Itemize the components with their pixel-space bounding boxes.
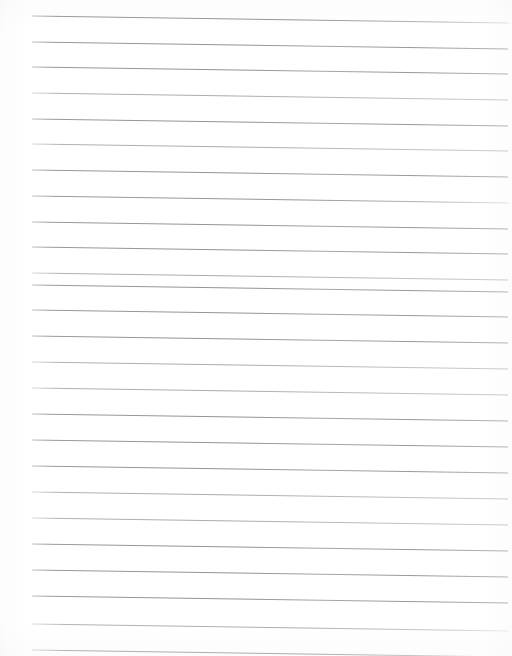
ruled-line bbox=[32, 570, 508, 577]
ruled-line bbox=[32, 492, 508, 499]
ruled-line bbox=[32, 196, 508, 203]
ruled-line bbox=[32, 170, 508, 177]
ruled-lines-layer bbox=[0, 0, 512, 656]
ruled-line bbox=[32, 624, 508, 631]
ruled-line bbox=[32, 144, 508, 151]
ruled-line bbox=[32, 42, 508, 49]
ruled-line bbox=[32, 16, 508, 23]
ruled-line bbox=[32, 310, 508, 317]
ruled-lines-group bbox=[32, 16, 508, 656]
ruled-line bbox=[32, 388, 508, 395]
ruled-line bbox=[32, 414, 508, 421]
ruled-line bbox=[32, 518, 508, 525]
ruled-line bbox=[32, 466, 508, 473]
ruled-line bbox=[32, 544, 508, 551]
ruled-line bbox=[32, 336, 508, 343]
ruled-line bbox=[32, 285, 508, 292]
ruled-line bbox=[32, 440, 508, 447]
ruled-line bbox=[32, 247, 508, 254]
ruled-line bbox=[32, 362, 508, 369]
ruled-line bbox=[32, 93, 508, 100]
scanned-page: Blank ruled notebook page bbox=[0, 0, 512, 656]
ruled-line bbox=[32, 67, 508, 74]
ruled-line bbox=[32, 119, 508, 126]
ruled-line bbox=[32, 222, 508, 229]
ruled-line bbox=[32, 650, 508, 656]
ruled-line bbox=[32, 273, 508, 280]
ruled-line bbox=[32, 596, 508, 603]
